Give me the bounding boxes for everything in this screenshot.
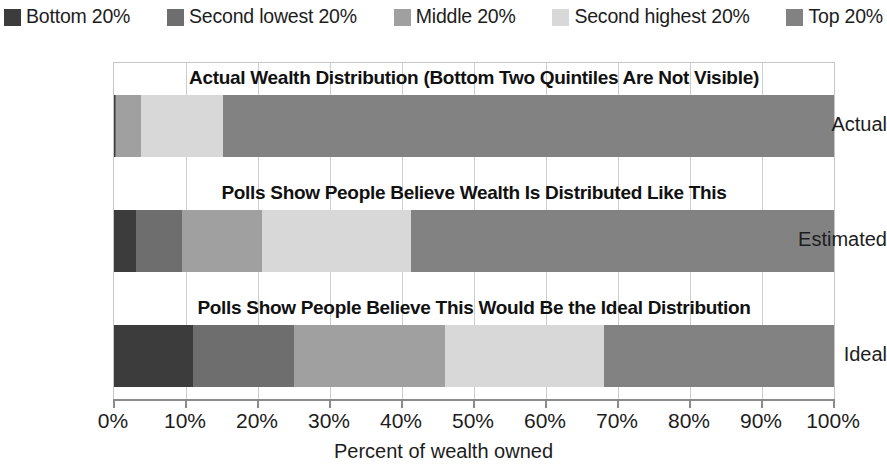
x-tick xyxy=(185,399,187,408)
bar-group-ideal: Polls Show People Believe This Would Be … xyxy=(114,295,834,398)
x-tick xyxy=(545,399,547,408)
x-tick-label: 40% xyxy=(380,409,422,433)
bar-annotation-actual: Actual Wealth Distribution (Bottom Two Q… xyxy=(114,67,834,89)
legend-item-second-lowest: Second lowest 20% xyxy=(167,7,357,27)
x-tick xyxy=(473,399,475,408)
y-tick-label-ideal: Ideal xyxy=(779,343,887,366)
legend-label-second-lowest: Second lowest 20% xyxy=(189,7,357,27)
x-tick xyxy=(401,399,403,408)
x-tick xyxy=(113,399,115,408)
bar-segment xyxy=(411,210,834,272)
x-tick-label: 20% xyxy=(236,409,278,433)
x-tick-label: 90% xyxy=(740,409,782,433)
x-tick xyxy=(257,399,259,408)
plot-area: Actual Wealth Distribution (Bottom Two Q… xyxy=(113,62,835,401)
x-axis-title: Percent of wealth owned xyxy=(0,440,887,463)
x-tick-label: 60% xyxy=(524,409,566,433)
x-tick xyxy=(833,399,835,408)
bar-group-actual: Actual Wealth Distribution (Bottom Two Q… xyxy=(114,65,834,168)
x-tick xyxy=(761,399,763,408)
x-tick-label: 50% xyxy=(452,409,494,433)
chart-legend: Bottom 20% Second lowest 20% Middle 20% … xyxy=(0,2,887,32)
bar-segment xyxy=(136,210,182,272)
bar-annotation-ideal: Polls Show People Believe This Would Be … xyxy=(114,297,834,319)
x-tick-label: 30% xyxy=(308,409,350,433)
legend-item-middle: Middle 20% xyxy=(394,7,516,27)
legend-swatch-second-lowest xyxy=(167,9,184,26)
y-tick-label-actual: Actual xyxy=(779,113,887,136)
legend-swatch-second-highest xyxy=(552,9,569,26)
x-tick xyxy=(689,399,691,408)
x-tick-label: 100% xyxy=(806,409,860,433)
bar-group-estimated: Polls Show People Believe Wealth Is Dist… xyxy=(114,180,834,283)
x-tick xyxy=(617,399,619,408)
bar-segment xyxy=(114,325,193,387)
legend-swatch-middle xyxy=(394,9,411,26)
bar-segment xyxy=(445,325,603,387)
bar-segment xyxy=(116,95,141,157)
legend-swatch-bottom xyxy=(4,9,21,26)
legend-swatch-top xyxy=(786,9,803,26)
bar-segment xyxy=(114,210,136,272)
stacked-bar-estimated xyxy=(114,210,834,272)
legend-label-bottom: Bottom 20% xyxy=(26,7,130,27)
bar-segment xyxy=(294,325,445,387)
legend-item-top: Top 20% xyxy=(786,7,883,27)
legend-item-bottom: Bottom 20% xyxy=(4,7,130,27)
legend-label-top: Top 20% xyxy=(808,7,883,27)
bar-segment xyxy=(223,95,834,157)
bar-annotation-estimated: Polls Show People Believe Wealth Is Dist… xyxy=(114,182,834,204)
bar-segment xyxy=(193,325,294,387)
bar-segment xyxy=(262,210,412,272)
bar-segment xyxy=(182,210,262,272)
x-tick-label: 70% xyxy=(596,409,638,433)
y-tick-label-estimated: Estimated xyxy=(779,228,887,251)
legend-item-second-highest: Second highest 20% xyxy=(552,7,749,27)
stacked-bar-actual xyxy=(114,95,834,157)
x-tick-label: 10% xyxy=(164,409,206,433)
bar-segment xyxy=(141,95,222,157)
legend-label-middle: Middle 20% xyxy=(416,7,516,27)
x-tick xyxy=(329,399,331,408)
legend-label-second-highest: Second highest 20% xyxy=(574,7,749,27)
stacked-bar-ideal xyxy=(114,325,834,387)
x-tick-label: 0% xyxy=(98,409,128,433)
x-tick-label: 80% xyxy=(668,409,710,433)
